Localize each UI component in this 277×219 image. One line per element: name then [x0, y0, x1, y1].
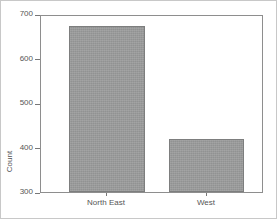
x-axis-label-north-east: North East — [66, 198, 146, 207]
y-tick-label: 300 — [20, 187, 33, 196]
x-tick-mark-west — [206, 193, 207, 196]
plot-area — [40, 15, 263, 193]
bar-chart-figure: 700 600 500 400 300 Count North East Wes… — [0, 0, 277, 219]
y-tick-label: 700 — [20, 9, 33, 18]
bar-north-east[interactable] — [69, 26, 145, 192]
bar-west[interactable] — [169, 139, 244, 192]
y-axis-title: Count — [5, 142, 14, 182]
x-axis-label-west: West — [166, 198, 246, 207]
y-tick-label: 600 — [20, 54, 33, 63]
x-tick-mark-north-east — [106, 193, 107, 196]
y-tick-label: 400 — [20, 143, 33, 152]
y-tick-label: 500 — [20, 98, 33, 107]
